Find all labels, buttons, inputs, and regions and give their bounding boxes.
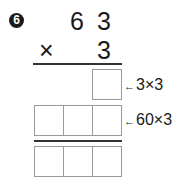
partial-2-hint-text: 60×3 <box>136 111 172 128</box>
operation-divider-line <box>33 63 122 65</box>
multiplicand-ones-digit: 3 <box>97 9 111 34</box>
partial-2-hint: ←60×3 <box>124 112 172 129</box>
partial-2-ones-box[interactable] <box>92 105 122 136</box>
partial-1-hint: ←3×3 <box>124 77 163 94</box>
result-ones-box[interactable] <box>92 146 122 177</box>
partial-2-hundreds-box[interactable] <box>34 105 64 136</box>
partial-1-hint-text: 3×3 <box>136 76 163 93</box>
multiplicand-tens-digit: 6 <box>70 9 84 34</box>
partial-1-ones-box[interactable] <box>92 69 122 100</box>
result-tens-box[interactable] <box>63 146 93 177</box>
left-arrow-icon: ← <box>124 80 135 92</box>
partial-2-tens-box[interactable] <box>63 105 93 136</box>
left-arrow-icon: ← <box>124 115 135 127</box>
sum-divider-line <box>34 140 122 142</box>
multiply-operator: × <box>39 38 54 63</box>
problem-number-badge: 6 <box>9 13 24 28</box>
multiplier-digit: 3 <box>97 38 111 63</box>
result-hundreds-box[interactable] <box>34 146 64 177</box>
